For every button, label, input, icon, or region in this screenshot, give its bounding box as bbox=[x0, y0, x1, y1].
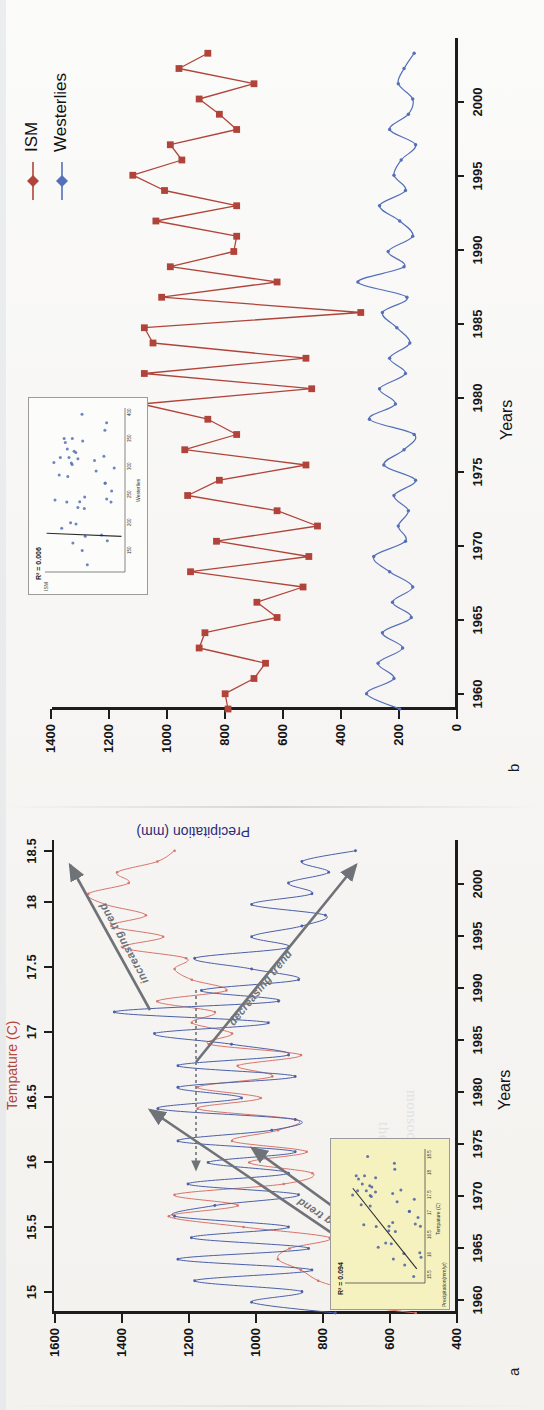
panel-a-inset-x-tick: 17 bbox=[427, 1210, 432, 1215]
legend-label-ism: ISM bbox=[22, 122, 42, 152]
panel-b-inset-x-tick: 150 bbox=[127, 546, 132, 554]
panel-a-plot-area bbox=[0, 810, 544, 1410]
panel-b-inset-y-title: ISM bbox=[43, 582, 49, 591]
legend-label-westerlies: Westerlies bbox=[51, 73, 71, 152]
panel-a: 1960 1965 1970 1975 1980 1985 1990 1995 … bbox=[0, 810, 544, 1410]
panel-a-inset-x-tick: 18 bbox=[427, 1170, 432, 1175]
panel-a-inset-x-tick: 16.5 bbox=[427, 1230, 432, 1239]
panel-a-inset-y-title: Precipitation(mm/yr) bbox=[441, 1262, 447, 1307]
panel-a-inset-x-tick: 18.5 bbox=[427, 1150, 432, 1159]
panel-b-inset-x-tick: 400 bbox=[127, 408, 132, 416]
panel-a-inset-x-tick: 15.5 bbox=[427, 1270, 432, 1279]
trend-arrow-temp-increasing bbox=[70, 865, 150, 1010]
panel-b: 1960 1965 1970 1975 1980 1985 1990 1995 … bbox=[0, 0, 544, 800]
panel-a-inset-x-tick: 17.5 bbox=[427, 1190, 432, 1199]
panel-b-inset-x-tick: 250 bbox=[127, 490, 132, 498]
panel-b-inset-x-title: Westerlies bbox=[135, 479, 141, 502]
scan-seam bbox=[0, 806, 544, 808]
panel-b-inset: R² = 0.006 150 200 250 300 350 400 Weste… bbox=[28, 397, 148, 595]
panel-a-inset-x-title: Tempature (C) bbox=[435, 1203, 441, 1235]
panel-b-inset-x-tick: 200 bbox=[127, 518, 132, 526]
panel-b-inset-x-tick: 350 bbox=[127, 434, 132, 442]
panel-a-inset: R² = 0.094 15.5 16 16.5 17 17.5 18 18.5 … bbox=[330, 1138, 450, 1310]
panel-a-inset-x-tick: 16 bbox=[427, 1252, 432, 1257]
panel-b-inset-x-tick: 300 bbox=[127, 462, 132, 470]
